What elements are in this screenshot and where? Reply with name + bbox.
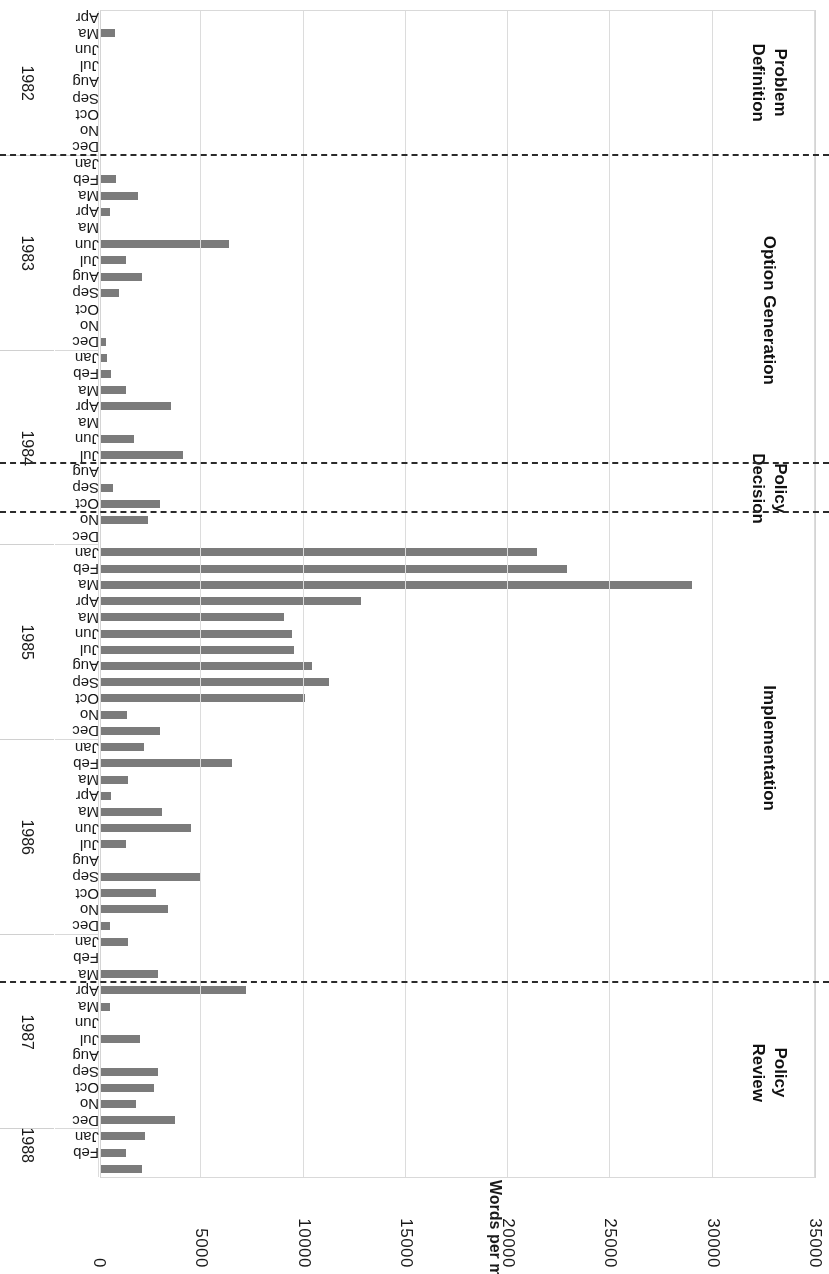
value-axis-title: Words per month xyxy=(486,1180,504,1274)
value-tick-label: 35000 xyxy=(805,1218,825,1268)
phase-divider xyxy=(0,981,829,983)
chart-figure: 35000300002500020000150001000050000Words… xyxy=(0,0,829,1274)
value-tick-label: 5000 xyxy=(191,1228,211,1268)
phase-divider xyxy=(0,154,829,156)
value-axis: 35000300002500020000150001000050000Words… xyxy=(0,1180,829,1274)
value-tick-label: 0 xyxy=(89,1258,109,1268)
chart-plate: 35000300002500020000150001000050000Words… xyxy=(0,0,829,1274)
value-tick-label: 10000 xyxy=(294,1218,314,1268)
value-tick-label: 25000 xyxy=(600,1218,620,1268)
value-tick-label: 30000 xyxy=(703,1218,723,1268)
value-tick-label: 15000 xyxy=(396,1218,416,1268)
phase-divider xyxy=(0,462,829,464)
phase-divider-layer xyxy=(0,10,829,1178)
phase-divider xyxy=(0,511,829,513)
